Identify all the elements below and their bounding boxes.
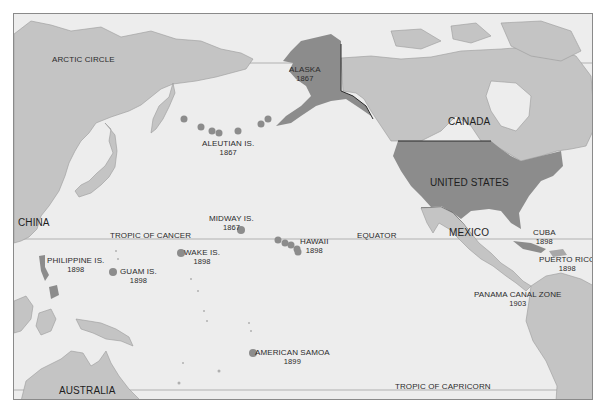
china-label: CHINA xyxy=(18,217,50,228)
aleutian-markers xyxy=(181,116,272,137)
australia-label: AUSTRALIA xyxy=(59,385,115,396)
midway-label: MIDWAY IS. 1867 xyxy=(209,214,254,232)
philippines-label: PHILIPPINE IS. 1898 xyxy=(47,256,104,274)
puerto-rico-label: PUERTO RICO 1898 xyxy=(539,255,593,273)
alaska-label: ALASKA 1867 xyxy=(289,65,321,83)
aleutian-label: ALEUTIAN IS. 1867 xyxy=(202,139,254,157)
mexico-label: MEXICO xyxy=(449,227,489,238)
hawaii-label: HAWAII 1898 xyxy=(300,237,328,255)
hawaii-markers xyxy=(275,237,302,256)
guam-marker xyxy=(109,268,117,276)
tropic-of-cancer-label: TROPIC OF CANCER xyxy=(110,231,191,240)
cuba-label: CUBA 1898 xyxy=(533,228,556,246)
united-states-label: UNITED STATES xyxy=(430,177,509,188)
map-frame: ARCTIC CIRCLE TROPIC OF CANCER EQUATOR T… xyxy=(13,13,593,400)
panama-label: PANAMA CANAL ZONE 1903 xyxy=(474,290,562,308)
guam-label: GUAM IS. 1898 xyxy=(120,267,157,285)
equator-label: EQUATOR xyxy=(357,231,397,240)
land-se-asia xyxy=(14,296,33,333)
land-borneo xyxy=(36,309,56,335)
canada-label: CANADA xyxy=(448,116,490,127)
samoa-label: AMERICAN SAMOA 1899 xyxy=(255,348,330,366)
land-new-guinea xyxy=(76,319,133,346)
tropic-of-capricorn-label: TROPIC OF CAPRICORN xyxy=(395,382,491,391)
wake-label: WAKE IS. 1898 xyxy=(184,248,220,266)
arctic-circle-label: ARCTIC CIRCLE xyxy=(52,55,115,64)
